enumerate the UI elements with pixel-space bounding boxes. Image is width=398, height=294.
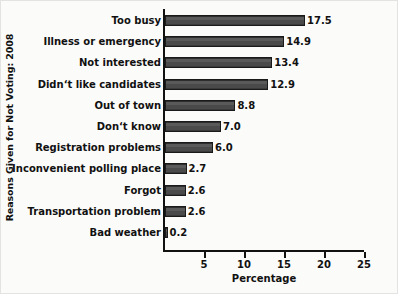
bar-value-label: 2.6 xyxy=(188,201,206,222)
x-tick-label: 5 xyxy=(184,259,224,270)
bar-row: Forgot2.6 xyxy=(1,180,398,201)
x-tick-mark xyxy=(324,252,326,258)
category-label: Didn‘t like candidates xyxy=(38,74,161,95)
bar-row: Out of town8.8 xyxy=(1,95,398,116)
bar-row: Inconvenient polling place2.7 xyxy=(1,158,398,179)
bar-value-label: 2.7 xyxy=(189,158,207,179)
category-label: Don‘t know xyxy=(97,116,161,137)
bar-value-label: 6.0 xyxy=(215,137,233,158)
bar-chart-figure: Reasons Given for Not Voting: 2008 Too b… xyxy=(0,0,398,294)
bar-value-label: 7.0 xyxy=(223,116,241,137)
bar-row: Transportation problem2.6 xyxy=(1,201,398,222)
bar-row: Bad weather0.2 xyxy=(1,222,398,243)
x-tick-mark xyxy=(284,252,286,258)
x-tick-label: 15 xyxy=(264,259,304,270)
bar xyxy=(165,100,235,111)
x-tick-label: 25 xyxy=(344,259,384,270)
bar-row: Illness or emergency14.9 xyxy=(1,31,398,52)
category-label: Transportation problem xyxy=(28,201,161,222)
bar xyxy=(165,206,186,217)
bar xyxy=(165,121,221,132)
category-label: Too busy xyxy=(112,10,161,31)
category-label: Inconvenient polling place xyxy=(12,158,161,179)
category-label: Forgot xyxy=(124,180,161,201)
x-tick-mark xyxy=(244,252,246,258)
x-tick-mark xyxy=(204,252,206,258)
bar-row: Too busy17.5 xyxy=(1,10,398,31)
bar xyxy=(165,15,305,26)
bar xyxy=(165,227,168,238)
x-axis-title: Percentage xyxy=(164,273,364,284)
plot-area: Too busy17.5Illness or emergency14.9Not … xyxy=(1,1,398,294)
bar xyxy=(165,57,272,68)
bar-value-label: 12.9 xyxy=(270,74,295,95)
bar-value-label: 13.4 xyxy=(274,52,299,73)
category-label: Out of town xyxy=(94,95,161,116)
x-tick-mark xyxy=(364,252,366,258)
bar-value-label: 14.9 xyxy=(286,31,311,52)
bar xyxy=(165,142,213,153)
x-tick-label: 10 xyxy=(224,259,264,270)
bar xyxy=(165,79,268,90)
x-tick-label: 20 xyxy=(304,259,344,270)
bar xyxy=(165,185,186,196)
bar-value-label: 2.6 xyxy=(188,180,206,201)
category-label: Illness or emergency xyxy=(43,31,161,52)
bar xyxy=(165,163,187,174)
bar-value-label: 8.8 xyxy=(237,95,255,116)
x-axis-line xyxy=(163,250,364,252)
category-label: Bad weather xyxy=(90,222,161,243)
category-label: Not interested xyxy=(79,52,161,73)
bar-row: Not interested13.4 xyxy=(1,52,398,73)
bar-row: Don‘t know7.0 xyxy=(1,116,398,137)
bar-value-label: 0.2 xyxy=(170,222,188,243)
bar xyxy=(165,36,284,47)
bar-row: Registration problems6.0 xyxy=(1,137,398,158)
bar-value-label: 17.5 xyxy=(307,10,332,31)
category-label: Registration problems xyxy=(35,137,161,158)
bar-row: Didn‘t like candidates12.9 xyxy=(1,74,398,95)
